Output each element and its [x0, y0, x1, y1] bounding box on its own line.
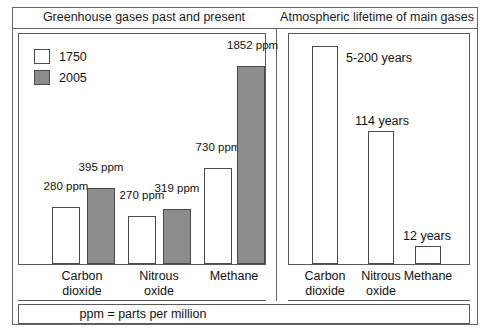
category-ch4-left-line1: Methane [184, 269, 284, 284]
legend-item-1750: 1750 [34, 48, 87, 65]
bar-unit-co2-1750: ppm [66, 180, 88, 192]
left-panel-title: Greenhouse gases past and present [12, 7, 276, 28]
bar-ch4-2005 [237, 66, 265, 264]
legend-label-1750: 1750 [59, 50, 87, 64]
bar-label-n2o-2005: 319 ppm [153, 182, 201, 195]
legend: 1750 2005 [34, 48, 87, 90]
right-chart-panel: 5-200 years 114 years 12 years [288, 33, 470, 265]
legend-label-2005: 2005 [59, 71, 87, 85]
legend-swatch-1750-icon [34, 49, 50, 64]
bar-label-lifetime-ch4: 12 years [403, 230, 451, 243]
bar-value-n2o-1750: 270 [120, 189, 139, 201]
bar-label-ch4-1750: 730 ppm [194, 141, 242, 154]
category-ch4-left: Methane [184, 269, 284, 284]
right-category-strip: Carbon dioxide Nitrous oxide Methane [288, 265, 470, 301]
bar-lifetime-ch4 [415, 246, 441, 264]
left-chart-panel: 1750 2005 280 ppm 395 ppm 270 ppm 319 pp [18, 33, 266, 265]
bar-label-co2-1750: 280 ppm [42, 180, 90, 193]
bar-value-ch4-1750: 730 [196, 141, 215, 153]
bar-label-ch4-2005: 1852 ppm [227, 39, 275, 52]
title-band: Greenhouse gases past and present Atmosp… [12, 7, 478, 29]
panel-divider [276, 29, 277, 301]
category-ch4-right: Methane [378, 269, 478, 284]
bar-unit-co2-2005: ppm [101, 161, 123, 173]
bar-value-co2-2005: 395 [79, 161, 98, 173]
bar-n2o-1750 [128, 216, 156, 264]
left-category-strip: Carbon dioxide Nitrous oxide Methane [18, 265, 266, 301]
bar-label-lifetime-n2o: 114 years [355, 115, 409, 128]
bar-unit-ch4-2005: ppm [256, 39, 278, 51]
figure-root: Greenhouse gases past and present Atmosp… [0, 0, 492, 336]
bar-value-n2o-2005: 319 [155, 182, 174, 194]
bar-n2o-2005 [163, 209, 191, 264]
bar-value-ch4-2005: 1852 [227, 39, 253, 51]
right-panel-title: Atmospheric lifetime of main gases [276, 7, 478, 28]
category-n2o-left-line2: oxide [109, 284, 209, 299]
footnote-text: ppm = parts per million [19, 305, 267, 323]
bar-ch4-1750 [204, 168, 232, 264]
legend-swatch-2005-icon [34, 70, 50, 85]
bar-unit-n2o-2005: ppm [177, 182, 199, 194]
category-n2o-right-line2: oxide [331, 284, 431, 299]
bar-co2-2005 [87, 188, 115, 264]
bar-label-lifetime-co2: 5-200 years [346, 52, 412, 65]
bar-co2-1750 [52, 207, 80, 264]
category-ch4-right-line1: Methane [378, 269, 478, 284]
footnote-band: ppm = parts per million [18, 304, 470, 324]
bar-lifetime-co2 [312, 46, 338, 264]
bar-label-co2-2005: 395 ppm [77, 161, 125, 174]
legend-item-2005: 2005 [34, 69, 87, 86]
bar-value-co2-1750: 280 [44, 180, 63, 192]
bar-lifetime-n2o [368, 131, 394, 264]
